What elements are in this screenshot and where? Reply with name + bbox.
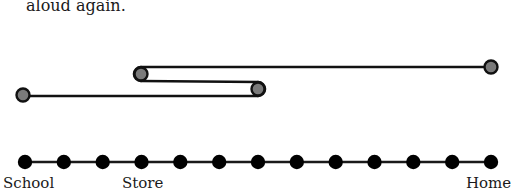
number-line-dot [18, 155, 32, 169]
number-line-dot [406, 155, 420, 169]
number-line-dot [445, 155, 459, 169]
number-line-dot [57, 155, 71, 169]
label-home: Home [466, 174, 511, 192]
path-end-marker [485, 61, 498, 74]
label-school: School [3, 174, 54, 192]
number-line-dot [290, 155, 304, 169]
label-store: Store [122, 174, 163, 192]
number-line-dot [134, 155, 148, 169]
walk-diagram [0, 0, 515, 193]
path-start-marker [17, 89, 30, 102]
path-turn-marker [135, 68, 148, 81]
number-line-dot [251, 155, 265, 169]
number-line-dot [96, 155, 110, 169]
number-line-dot [212, 155, 226, 169]
path-turn-marker [252, 83, 265, 96]
number-line-dot [173, 155, 187, 169]
number-line-dot [329, 155, 343, 169]
number-line-dot [367, 155, 381, 169]
number-line-dot [484, 155, 498, 169]
number-line [18, 155, 498, 169]
path-segment-2 [141, 81, 258, 82]
